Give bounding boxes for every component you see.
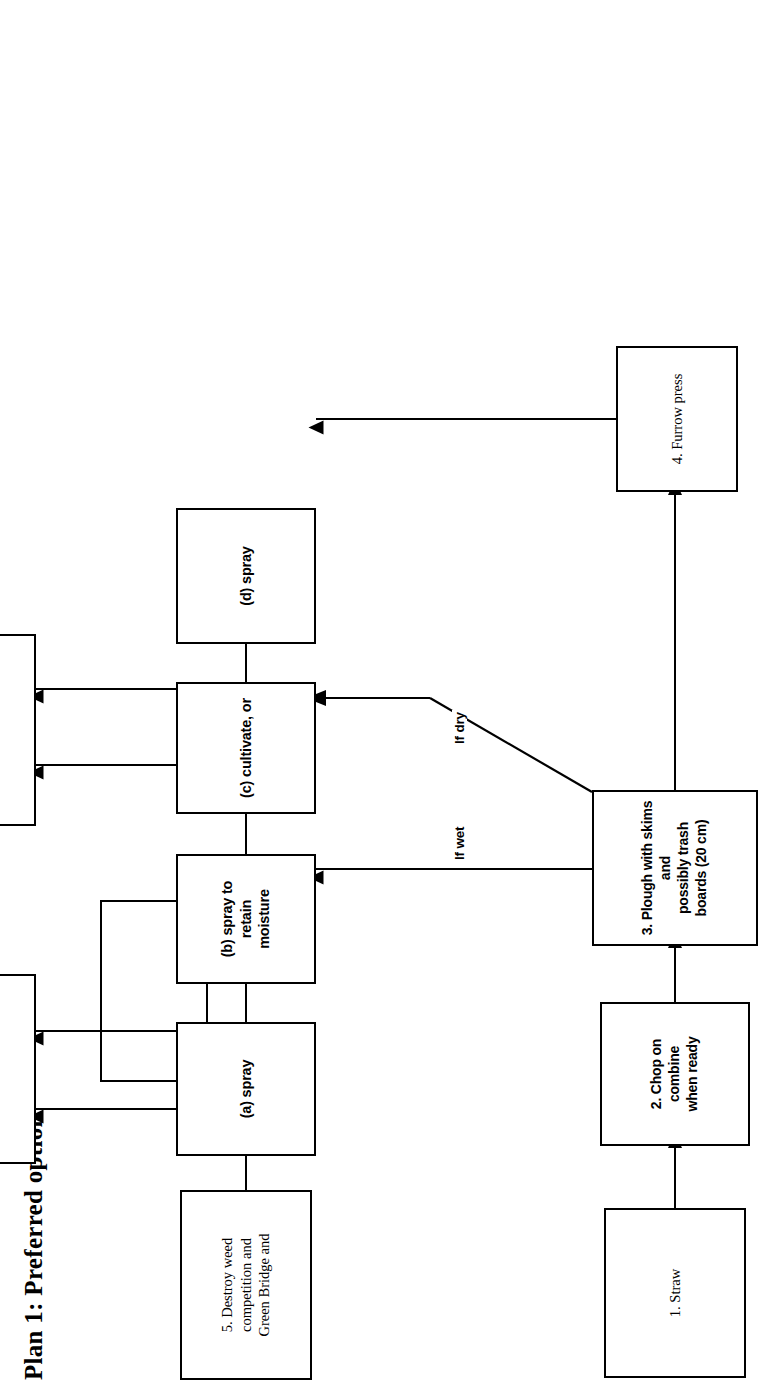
edge-furrow-to-opt-d-arrowhead (308, 421, 323, 435)
node-option-c-cultivate-label: (c) cultivate, or (237, 698, 256, 798)
node-option-d-spray[interactable]: (d) spray (176, 508, 316, 644)
node-option-c-cultivate[interactable]: (c) cultivate, or (176, 682, 316, 814)
node-option-a-spray[interactable]: (a) spray (176, 1022, 316, 1156)
edge-opt-c-to-drill-line (36, 764, 176, 766)
node-option-d-spray-label: (d) spray (237, 546, 256, 605)
edge-opt-b-to-opt-c (245, 814, 247, 854)
edge-opt-a-to-seedbed-line (36, 1108, 176, 1110)
node-drill[interactable]: 7. Drill with conventional drill (0, 634, 36, 826)
node-option-b-spray-moisture-label: (b) spray to retain moisture (218, 862, 274, 976)
node-destroy-weed-label: 5. Destroy weed competition and Green Br… (218, 1233, 274, 1336)
node-option-b-spray-moisture[interactable]: (b) spray to retain moisture (176, 854, 316, 984)
edge-if-dry-group (0, 0, 764, 1398)
edge-label-if-dry: If dry (452, 710, 467, 746)
flowchart-canvas: Plan 1: Preferred option 1. Straw 2. Cho… (0, 0, 764, 1398)
node-destroy-weed[interactable]: 5. Destroy weed competition and Green Br… (180, 1190, 312, 1380)
edge-opt-a-to-opt-b (245, 984, 247, 1022)
edge-opt-c-to-opt-d (245, 644, 247, 682)
edge-opt-b-to-seedbed-line (36, 1030, 176, 1032)
node-option-a-spray-label: (a) spray (237, 1060, 256, 1119)
edge-furrow-to-opt-d-line (316, 418, 616, 420)
edge-opt-d-to-drill-line (36, 688, 176, 690)
edge-destroy-weed-to-opt-a (245, 1156, 247, 1190)
node-prepare-seedbed[interactable]: 6. Prepare seedbed with light implements (0, 974, 36, 1164)
